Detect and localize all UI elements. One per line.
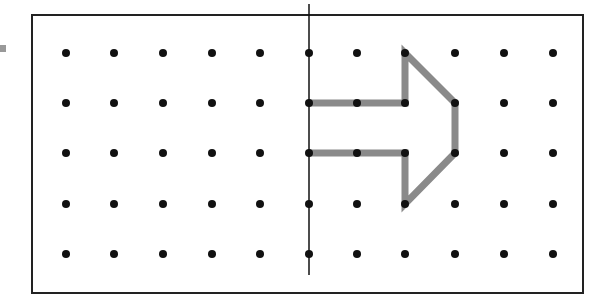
- grid-dot: [451, 49, 459, 57]
- grid-dot: [159, 49, 167, 57]
- arrow-shape: [309, 53, 455, 204]
- grid-dot: [500, 99, 508, 107]
- grid-dot: [353, 99, 361, 107]
- grid-dot: [208, 49, 216, 57]
- grid-dot: [159, 200, 167, 208]
- grid-dot: [451, 99, 459, 107]
- grid-dot: [62, 200, 70, 208]
- grid-dot: [353, 149, 361, 157]
- grid-dot: [500, 149, 508, 157]
- grid-dot: [110, 250, 118, 258]
- grid-dot: [208, 149, 216, 157]
- grid-dot: [208, 200, 216, 208]
- grid-dot: [256, 250, 264, 258]
- grid-dot: [208, 99, 216, 107]
- grid-dot: [401, 99, 409, 107]
- grid-dot: [159, 99, 167, 107]
- grid-dot: [500, 49, 508, 57]
- grid-dot: [256, 99, 264, 107]
- grid-dot: [62, 99, 70, 107]
- grid-dot: [549, 149, 557, 157]
- grid-dot: [110, 99, 118, 107]
- grid-dot: [500, 200, 508, 208]
- grid-dot: [62, 149, 70, 157]
- grid-dot: [401, 250, 409, 258]
- grid-dot: [401, 49, 409, 57]
- grid-dot: [549, 49, 557, 57]
- grid-dot: [159, 250, 167, 258]
- grid-dot: [256, 49, 264, 57]
- grid-dot: [62, 250, 70, 258]
- grid-dot: [500, 250, 508, 258]
- grid-dot: [110, 149, 118, 157]
- grid-dot: [549, 250, 557, 258]
- grid-dot: [256, 149, 264, 157]
- grid-dot: [110, 200, 118, 208]
- grid-dot: [159, 149, 167, 157]
- grid-dot: [451, 250, 459, 258]
- grid-dot: [353, 49, 361, 57]
- grid-dot: [353, 200, 361, 208]
- grid-dot: [549, 99, 557, 107]
- dot-grid-diagram: [0, 0, 595, 306]
- grid-dot: [353, 250, 361, 258]
- grid-dot: [256, 200, 264, 208]
- grid-dot: [451, 149, 459, 157]
- grid-dot: [110, 49, 118, 57]
- grid-dot: [208, 250, 216, 258]
- grid-dot: [401, 149, 409, 157]
- grid-dot: [401, 200, 409, 208]
- grid-dot: [549, 200, 557, 208]
- grid-dot: [62, 49, 70, 57]
- grid-dot: [451, 200, 459, 208]
